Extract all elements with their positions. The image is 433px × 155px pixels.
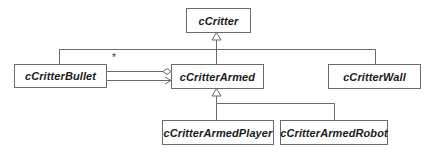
class-box-ccritterarmedplayer[interactable]: cCritterArmedPlayer [162,120,274,145]
generalization-bus-top [60,50,376,65]
class-box-ccritterwall[interactable]: cCritterWall [328,64,421,89]
class-box-ccritter[interactable]: cCritter [186,8,251,33]
aggregation-diamond [163,69,171,75]
multiplicity-label: * [112,52,116,63]
generalization-triangle-critter [212,33,221,41]
class-box-ccritterbullet[interactable]: cCritterBullet [14,64,107,88]
uml-class-diagram: * cCritter cCritterBullet cCritterArmed … [0,0,433,155]
class-box-ccritterarmedrobot[interactable]: cCritterArmedRobot [280,120,388,145]
class-box-ccritterarmed[interactable]: cCritterArmed [171,64,264,89]
generalization-triangle-armed [212,89,221,97]
generalization-bus-bottom [217,104,335,121]
